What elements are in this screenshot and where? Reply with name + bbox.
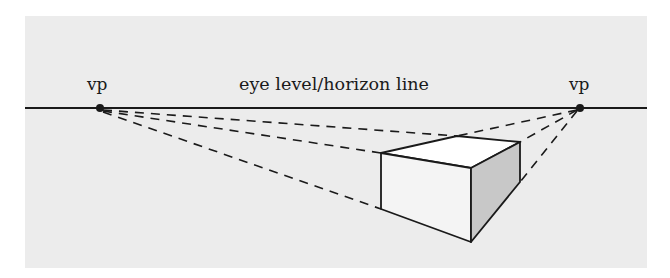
vp-left-dot [96, 104, 104, 112]
box-front-face [381, 153, 471, 242]
perspective-diagram: vp eye level/horizon line vp [0, 0, 670, 278]
horizon-label: eye level/horizon line [239, 74, 429, 94]
vp-right-label: vp [568, 74, 590, 94]
box [381, 136, 520, 242]
vp-left-label: vp [86, 74, 108, 94]
vp-right-dot [576, 104, 584, 112]
